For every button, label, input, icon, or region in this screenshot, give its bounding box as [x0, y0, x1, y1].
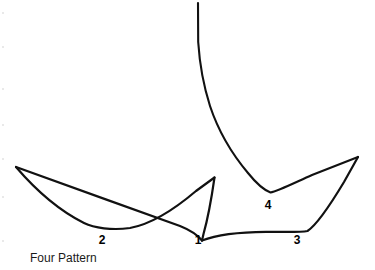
spike-and-decay-path	[198, 3, 358, 193]
pattern-curve-svg	[0, 0, 375, 270]
loop-closing-path	[202, 178, 215, 241]
point-label-1: 1	[195, 234, 202, 246]
point-label-3: 3	[294, 234, 301, 246]
four-pattern-figure: 2 1 3 4 Four Pattern	[0, 0, 375, 270]
left-descending-curve-path	[16, 167, 215, 229]
point-label-2: 2	[99, 234, 106, 246]
lower-base-line-path	[202, 157, 358, 241]
point-label-4: 4	[265, 199, 272, 211]
figure-caption: Four Pattern	[30, 252, 97, 265]
